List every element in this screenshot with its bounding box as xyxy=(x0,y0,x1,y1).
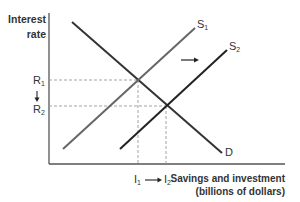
y-axis-label-line1: Interest xyxy=(6,12,46,27)
r1-label: R1 xyxy=(33,75,45,89)
d-label: D xyxy=(225,147,233,158)
y-axis-label-line2: rate xyxy=(6,27,46,42)
x-axis-label-line1: Savings and investment xyxy=(170,172,285,185)
demand-curve xyxy=(72,22,222,153)
y-axis-label: Interest rate xyxy=(6,12,46,42)
x-axis-label: Savings and investment (billions of doll… xyxy=(170,172,285,198)
s1-label: S1 xyxy=(197,19,208,33)
s2-label: S2 xyxy=(229,41,240,55)
supply-curve-s2 xyxy=(120,50,227,149)
supply-curve-s1 xyxy=(63,28,195,149)
x-axis-label-line2: (billions of dollars) xyxy=(170,185,285,198)
shift-arrow-icon xyxy=(181,58,199,63)
right-arrow-icon xyxy=(145,178,162,183)
down-arrow-icon xyxy=(35,91,40,102)
i1-label: I1 xyxy=(134,174,141,188)
r2-label: R2 xyxy=(33,104,45,118)
